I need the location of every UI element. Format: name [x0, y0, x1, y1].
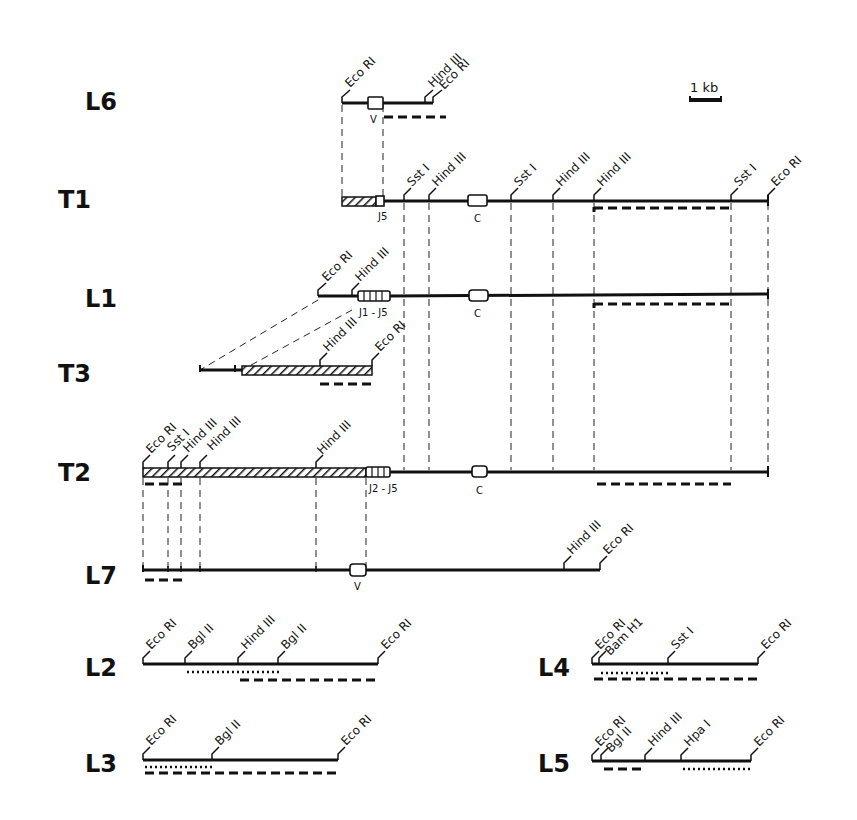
site-L1-0: Eco RI: [319, 248, 355, 284]
site-T1-4: Hind III: [594, 150, 634, 190]
site-T1-2: Sst I: [511, 161, 539, 189]
row-label-L3: L3: [85, 750, 117, 778]
v-segment-box: [368, 97, 383, 109]
site-L2-0: Eco RI: [143, 616, 179, 652]
restriction-map-diagram: 1 kb L6 T1 L1 T3 T2 L7 L2 L3 L4 L5: [0, 0, 857, 820]
site-L2-1: Bgl II: [185, 621, 216, 652]
segment-label-V: V: [370, 114, 377, 125]
map-T1: J5 C Sst I Hind III Sst I Hind III Hind …: [342, 150, 804, 224]
segment-label-C: C: [476, 485, 483, 496]
map-L5: Eco RI Bgl II Hind III Hpa I Eco RI: [592, 710, 787, 769]
row-label-L5: L5: [538, 750, 570, 778]
map-L7: V Hind III Eco RI: [143, 518, 636, 592]
site-T1-5: Sst I: [731, 161, 759, 189]
map-T2: J2 - J5 C Eco RI Sst I Hind III Hind III…: [143, 414, 768, 496]
site-L3-2: Eco RI: [338, 712, 374, 748]
c-segment-box: [472, 466, 487, 477]
row-label-T3: T3: [58, 360, 91, 388]
row-label-T1: T1: [58, 186, 91, 214]
row-label-L2: L2: [85, 654, 117, 682]
segment-label-J1-J5: J1 - J5: [358, 307, 388, 318]
row-label-L6: L6: [85, 88, 117, 116]
scale-bar: 1 kb: [690, 80, 721, 102]
site-L2-3: Bgl II: [278, 621, 309, 652]
site-L6-0: Eco RI: [342, 54, 378, 90]
site-T1-3: Hind III: [553, 150, 593, 190]
site-T3-0: Hind III: [320, 315, 360, 355]
map-L3: Eco RI Bgl II Eco RI: [143, 712, 374, 773]
segment-label-C: C: [474, 213, 481, 224]
c-segment-box: [468, 195, 487, 206]
row-label-L7: L7: [85, 562, 117, 590]
site-T1-1: Hind III: [429, 150, 469, 190]
row-label-L4: L4: [538, 654, 570, 682]
hatched-region: [342, 197, 376, 206]
map-L6: V Eco RI Hind III Eco RI: [342, 51, 472, 125]
j1-j5-box: [358, 291, 390, 301]
map-L1: J1 - J5 C Eco RI Hind III: [318, 245, 768, 319]
site-L3-0: Eco RI: [143, 712, 179, 748]
site-L4-2: Sst I: [668, 624, 696, 652]
probe-bar: [594, 303, 731, 308]
site-L7-1: Eco RI: [600, 521, 636, 557]
v-segment-box: [350, 564, 366, 576]
j5-box: [376, 196, 384, 206]
map-L4: Eco RI Bam H1 Sst I Eco RI: [592, 614, 794, 679]
segment-label-C: C: [474, 308, 481, 319]
hatched-region: [242, 366, 372, 375]
site-L1-1: Hind III: [352, 245, 392, 285]
site-L5-2: Hind III: [645, 710, 685, 750]
site-L5-3: Hpa I: [681, 717, 713, 749]
c-segment-box: [469, 290, 488, 301]
site-T2-4: Hind III: [314, 418, 354, 458]
site-L2-4: Eco RI: [378, 616, 414, 652]
map-T3: Hind III Eco RI: [200, 315, 408, 384]
map-L2: Eco RI Bgl II Hind III Bgl II Eco RI: [143, 613, 414, 680]
site-T1-6: Eco RI: [768, 153, 804, 189]
site-L3-1: Bgl II: [212, 717, 243, 748]
probe-bar: [594, 207, 731, 212]
site-L2-2: Hind III: [238, 613, 278, 653]
segment-label-J5: J5: [377, 211, 387, 222]
site-L5-4: Eco RI: [751, 713, 787, 749]
site-L7-0: Hind III: [564, 518, 604, 558]
site-T3-1: Eco RI: [372, 318, 408, 354]
site-L4-3: Eco RI: [758, 616, 794, 652]
scale-bar-label: 1 kb: [690, 80, 718, 95]
alignment-guides: [143, 105, 768, 568]
row-label-L1: L1: [85, 285, 117, 313]
row-label-T2: T2: [58, 459, 91, 487]
hatched-region: [143, 468, 366, 477]
segment-label-J2-J5: J2 - J5: [368, 483, 398, 494]
site-T1-0: Sst I: [404, 161, 432, 189]
segment-label-V: V: [354, 581, 361, 592]
